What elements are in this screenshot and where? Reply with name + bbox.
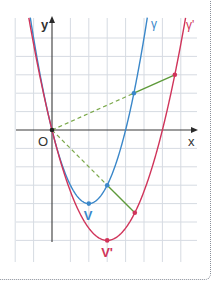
point-on-gamma-prime-1 (133, 211, 138, 216)
curve-label-gamma: γ (151, 17, 157, 31)
y-axis-arrow-icon (49, 16, 55, 23)
vertex-label-v: V (84, 208, 93, 223)
curve-label-gamma-prime: γ' (186, 18, 194, 32)
labels: γ γ' V V' (84, 17, 194, 260)
points (50, 73, 177, 243)
point-on-gamma-0 (132, 91, 137, 96)
vertex-point-1 (105, 238, 110, 243)
origin-point (50, 128, 55, 133)
point-on-gamma-prime-0 (173, 73, 178, 78)
point-on-gamma-1 (105, 183, 110, 188)
solid-segment-1 (107, 185, 135, 213)
solid-segment-0 (134, 75, 175, 93)
vertex-point-0 (87, 201, 92, 206)
parabola-diagram: x y O γ γ' V V' (0, 0, 214, 283)
x-axis-label: x (188, 134, 195, 149)
y-axis-label: y (41, 17, 49, 32)
x-axis-arrow-icon (191, 127, 198, 133)
origin-label: O (38, 134, 48, 149)
vertex-label-v-prime: V' (101, 245, 113, 260)
